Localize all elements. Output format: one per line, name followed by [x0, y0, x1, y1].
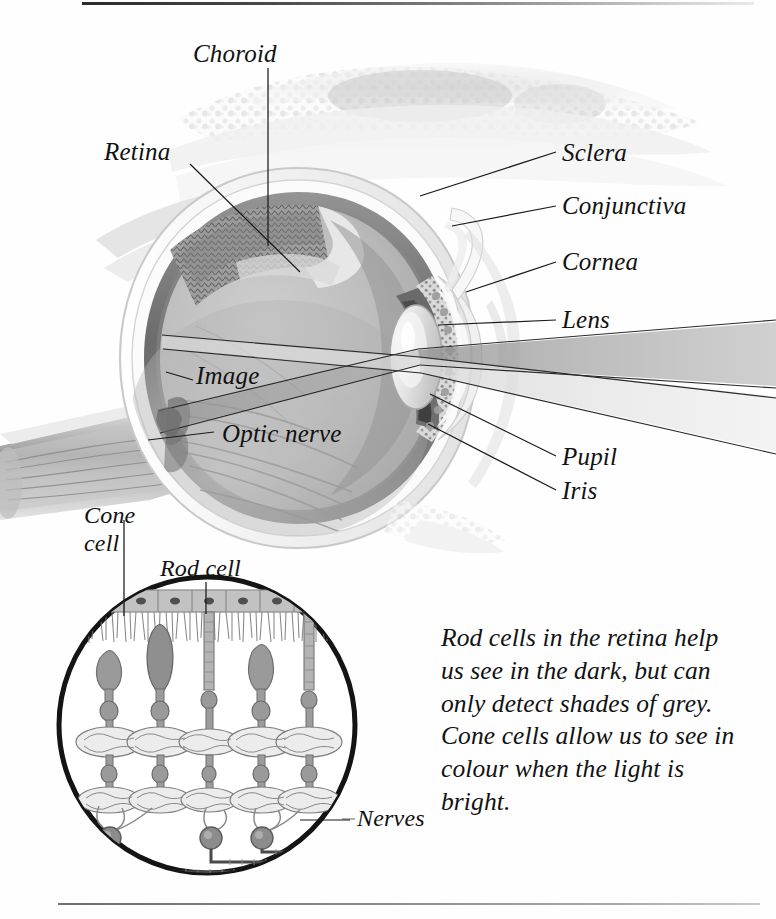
label-optic-nerve: Optic nerve	[222, 420, 342, 447]
label-cone-cell-line1: Cone	[84, 503, 135, 529]
label-choroid: Choroid	[193, 40, 277, 67]
label-lens: Lens	[562, 306, 610, 333]
label-nerves: Nerves	[357, 806, 425, 832]
label-cone-cell-line2: cell	[84, 531, 119, 557]
lower-orbital-tissue	[384, 500, 506, 553]
label-cornea: Cornea	[562, 248, 638, 275]
pigment-epithelium-row	[56, 590, 358, 612]
label-iris: Iris	[562, 477, 598, 504]
label-retina: Retina	[104, 138, 170, 165]
label-image: Image	[196, 362, 259, 389]
caption-text: Rod cells in the retina help us see in t…	[441, 622, 741, 819]
label-sclera: Sclera	[562, 139, 627, 166]
label-conjunctiva: Conjunctiva	[562, 192, 686, 219]
retina-cell-inset	[56, 577, 358, 875]
label-rod-cell: Rod cell	[160, 556, 241, 582]
bottom-rule	[58, 903, 760, 905]
leader-cornea	[466, 262, 556, 292]
figure-page: Choroid Retina Sclera Conjunctiva Cornea…	[0, 0, 776, 919]
top-rule	[82, 2, 754, 5]
label-pupil: Pupil	[562, 443, 617, 470]
